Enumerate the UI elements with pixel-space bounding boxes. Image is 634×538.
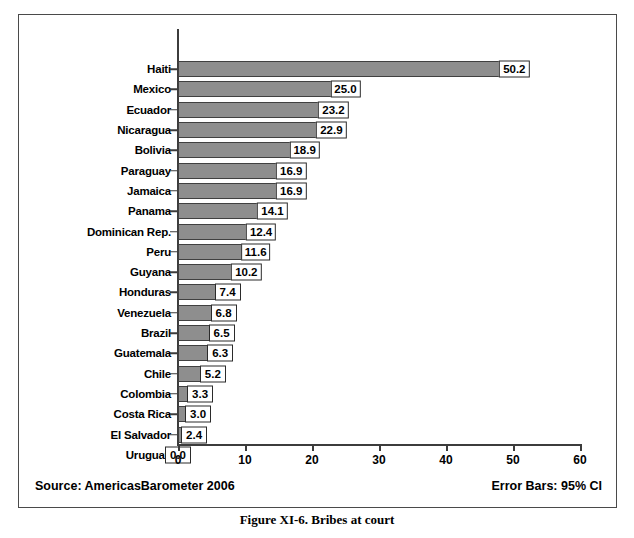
category-label: Nicaragua [117, 124, 171, 136]
bar-row: Brazil6.5 [19, 323, 618, 343]
bar-row: Ecuador23.2 [19, 100, 618, 120]
category-label: Honduras [119, 286, 171, 298]
y-axis-tick [170, 373, 177, 375]
figure-page: Haiti50.2Mexico25.0Ecuador23.2Nicaragua2… [0, 0, 634, 538]
bar-value-label: 22.9 [316, 122, 346, 139]
y-axis-tick [170, 312, 177, 314]
bar-row: Panama14.1 [19, 201, 618, 221]
bar-value-label: 10.2 [231, 264, 261, 281]
category-label: Brazil [141, 327, 171, 339]
y-axis-tick [170, 434, 177, 436]
y-axis-tick [170, 353, 177, 355]
y-axis-tick [170, 292, 177, 294]
y-axis-tick [170, 251, 177, 253]
bar-value-label: 6.5 [209, 325, 235, 342]
bar-value-label: 6.3 [207, 345, 233, 362]
category-label: Jamaica [127, 185, 171, 197]
x-axis-tick [513, 444, 515, 451]
bar-value-label: 3.0 [185, 406, 211, 423]
y-axis-tick [170, 150, 177, 152]
category-label: Guatemala [114, 347, 171, 359]
category-label: Dominican Rep. [87, 226, 171, 238]
bar-value-label: 50.2 [499, 61, 529, 78]
category-label: Mexico [133, 83, 171, 95]
bar-row: Venezuela6.8 [19, 303, 618, 323]
category-label: El Salvador [111, 429, 171, 441]
bar-row: Bolivia18.9 [19, 140, 618, 160]
category-label: Chile [144, 368, 171, 380]
x-axis-tick [312, 444, 314, 451]
x-axis-tick-label: 40 [439, 453, 452, 467]
x-axis-tick-label: 0 [175, 453, 182, 467]
bar [178, 122, 332, 138]
bar-row: Mexico25.0 [19, 79, 618, 99]
bar-value-label: 6.8 [211, 304, 237, 321]
bar-row: Honduras7.4 [19, 282, 618, 302]
bar-value-label: 14.1 [257, 203, 287, 220]
x-axis-tick [379, 444, 381, 451]
bar-row: Dominican Rep.12.4 [19, 221, 618, 241]
category-label: Venezuela [117, 307, 171, 319]
x-axis-tick [178, 444, 180, 451]
bar-value-label: 2.4 [181, 426, 207, 443]
bar [178, 163, 292, 179]
x-axis: 0102030405060 [19, 444, 618, 478]
x-axis-tick-label: 30 [372, 453, 385, 467]
bar-row: Haiti50.2 [19, 59, 618, 79]
y-axis-tick [170, 210, 177, 212]
bar-row: Peru11.6 [19, 242, 618, 262]
category-label: Guyana [130, 266, 171, 278]
bar-value-label: 16.9 [276, 162, 306, 179]
bar [178, 183, 292, 199]
bar-row: Colombia3.3 [19, 384, 618, 404]
y-axis-tick [170, 129, 177, 131]
bar-value-label: 23.2 [318, 101, 348, 118]
x-axis-tick-label: 60 [573, 453, 586, 467]
figure-frame: Haiti50.2Mexico25.0Ecuador23.2Nicaragua2… [18, 14, 617, 508]
category-label: Bolivia [135, 144, 171, 156]
bar-value-label: 7.4 [215, 284, 241, 301]
y-axis-tick [170, 190, 177, 192]
source-note: Source: AmericasBarometer 2006 [35, 479, 235, 493]
category-label: Colombia [120, 388, 171, 400]
y-axis-tick [170, 109, 177, 111]
category-label: Paraguay [121, 165, 171, 177]
y-axis-tick [170, 231, 177, 233]
category-label: Peru [146, 246, 171, 258]
bar [178, 102, 335, 118]
chart-plot-area: Haiti50.2Mexico25.0Ecuador23.2Nicaragua2… [19, 15, 618, 509]
x-axis-tick [580, 444, 582, 451]
bar [178, 81, 348, 97]
bar-value-label: 25.0 [330, 81, 360, 98]
category-label: Ecuador [126, 104, 171, 116]
bar-row: Guatemala6.3 [19, 343, 618, 363]
x-axis-tick-label: 50 [506, 453, 519, 467]
bar-value-label: 12.4 [246, 223, 276, 240]
y-axis-tick [170, 332, 177, 334]
bar-value-label: 18.9 [289, 142, 319, 159]
bar-value-label: 11.6 [241, 243, 271, 260]
bar-row: Chile5.2 [19, 364, 618, 384]
error-bars-note: Error Bars: 95% CI [492, 479, 602, 493]
bar-row: Jamaica16.9 [19, 181, 618, 201]
y-axis-tick [170, 393, 177, 395]
bar-row: El Salvador2.4 [19, 424, 618, 444]
x-axis-tick [245, 444, 247, 451]
bar-value-label: 3.3 [187, 385, 213, 402]
category-label: Panama [128, 205, 171, 217]
bar-row: Paraguay16.9 [19, 161, 618, 181]
bar-value-label: 5.2 [200, 365, 226, 382]
bar [178, 142, 305, 158]
x-axis-tick-label: 20 [305, 453, 318, 467]
y-axis-tick [170, 68, 177, 70]
x-axis-tick-label: 10 [238, 453, 251, 467]
bar-row: Nicaragua22.9 [19, 120, 618, 140]
x-axis-tick [446, 444, 448, 451]
y-axis-tick [170, 271, 177, 273]
bar-row: Guyana10.2 [19, 262, 618, 282]
bar-rows: Haiti50.2Mexico25.0Ecuador23.2Nicaragua2… [19, 15, 618, 445]
y-axis-tick [170, 413, 177, 415]
y-axis-tick [170, 89, 177, 91]
bar-row: Costa Rica3.0 [19, 404, 618, 424]
bar [178, 61, 514, 77]
